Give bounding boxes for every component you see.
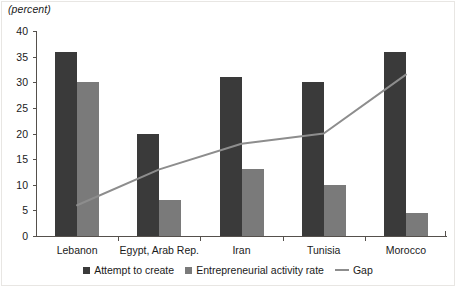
y-tick-label: 30: [6, 77, 28, 87]
chart-legend: Attempt to createEntrepreneurial activit…: [0, 264, 456, 276]
line-gray-icon: [335, 269, 349, 271]
legend-item: Gap: [335, 264, 373, 276]
gap-line-path: [77, 75, 406, 206]
x-category-label: Tunisia: [307, 244, 340, 256]
y-tick-label: 25: [6, 103, 28, 113]
legend-item-label: Attempt to create: [94, 264, 174, 276]
y-tick-label: 20: [6, 129, 28, 139]
square-dark-icon: [83, 267, 90, 274]
legend-item-label: Entrepreneurial activity rate: [196, 264, 324, 276]
x-category-label: Lebanon: [57, 244, 98, 256]
legend-item: Entrepreneurial activity rate: [185, 264, 324, 276]
gap-line-series: [36, 31, 447, 237]
y-axis-unit-label: (percent): [8, 3, 51, 15]
y-tick-label: 40: [6, 26, 28, 36]
y-tick-label: 35: [6, 52, 28, 62]
x-category-label: Egypt, Arab Rep.: [120, 244, 199, 256]
y-tick-label: 15: [6, 154, 28, 164]
plot-area: 0510152025303540: [36, 31, 447, 237]
y-tick-label: 0: [6, 231, 28, 241]
legend-item-label: Gap: [353, 264, 373, 276]
x-category-label: Iran: [232, 244, 250, 256]
square-gray-icon: [185, 267, 192, 274]
chart-figure: (percent) 0510152025303540 LebanonEgypt,…: [0, 0, 456, 287]
legend-item: Attempt to create: [83, 264, 174, 276]
x-category-label: Morocco: [386, 244, 426, 256]
y-tick-label: 5: [6, 205, 28, 215]
y-tick-label: 10: [6, 180, 28, 190]
